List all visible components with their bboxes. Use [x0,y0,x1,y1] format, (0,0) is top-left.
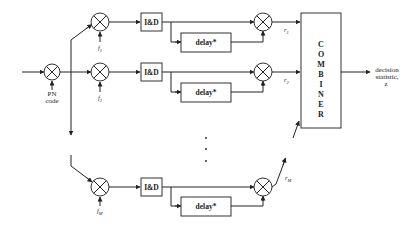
freq-label-f1: f1 [98,44,102,53]
combiner-letter: E [318,100,323,109]
branch-1: f1 I&D delay* r1 [91,13,300,53]
integrate-dump-label-1: I&D [144,18,159,27]
freq-label-fm: fM [97,207,103,216]
combiner-letter: R [318,110,324,119]
splitter-lines [60,25,92,183]
pn-code-mixer-icon [44,64,60,80]
delay-label-m: delay* [196,202,217,211]
mixer-f2-icon [91,63,109,81]
branch-m: fM I&D delay* rM [91,121,299,216]
delay-label-2: delay* [196,88,217,97]
decision-label-line3: z [384,80,387,88]
output-mixer-1-icon [254,13,272,31]
delay-label-1: delay* [196,38,217,47]
output-label-r2: r2 [284,76,290,85]
freq-label-f2: f2 [98,94,103,103]
output-label-rm: rM [285,174,292,183]
dpsk-multicarrier-receiver-diagram: PN code f1 I&D delay* r [0,0,414,226]
vertical-ellipsis [205,137,207,162]
combiner-letter: M [317,60,325,69]
output-label-r1: r1 [284,26,289,35]
output-mixer-2-icon [254,63,272,81]
combiner-letter: N [318,90,324,99]
combiner-block: C O M B I N E R [301,13,341,128]
integrate-dump-label-m: I&D [144,183,159,192]
combiner-letter: I [319,80,322,89]
integrate-dump-label-2: I&D [144,68,159,77]
combiner-letter: B [318,70,324,79]
pn-code-label-line2: code [45,97,58,105]
mixer-f1-icon [91,13,109,31]
output-mixer-m-icon [254,178,272,196]
mixer-fm-icon [91,178,109,196]
branch-2: f2 I&D delay* r2 [91,63,300,103]
combiner-letter: C [318,40,324,49]
combiner-letter: O [318,50,324,59]
